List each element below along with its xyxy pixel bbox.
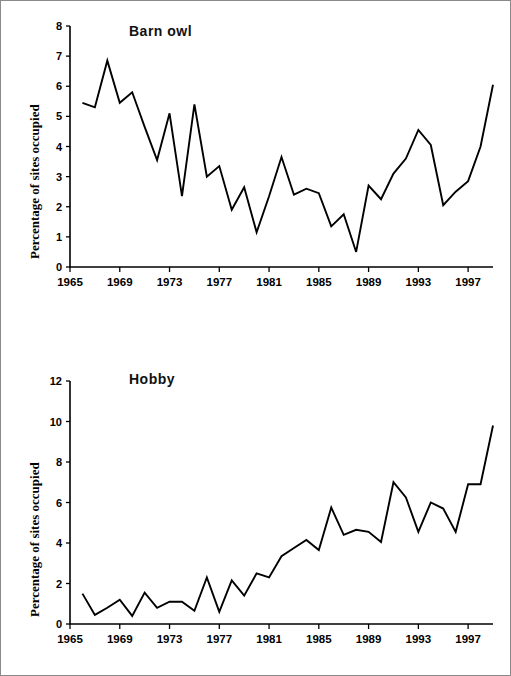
x-tick-label: 1985: [306, 633, 332, 645]
x-tick-label: 1973: [157, 276, 183, 288]
figure-frame: Percentage of sites occupied Barn owl 01…: [0, 0, 511, 676]
y-tick-label: 6: [56, 80, 62, 92]
x-tick-label: 1965: [57, 633, 83, 645]
data-series-line: [82, 61, 493, 252]
x-tick-label: 1985: [306, 276, 332, 288]
x-tick-label: 1977: [206, 276, 232, 288]
x-tick-label: 1993: [406, 633, 432, 645]
y-tick-label: 2: [56, 578, 62, 590]
chart-panel-hobby: Percentage of sites occupied Hobby 02468…: [1, 339, 511, 676]
x-tick-label: 1969: [107, 633, 133, 645]
y-tick-label: 4: [56, 537, 63, 549]
y-tick-label: 8: [56, 20, 62, 32]
x-tick-label: 1977: [206, 633, 232, 645]
y-tick-label: 1: [56, 231, 62, 243]
y-tick-label: 10: [50, 416, 62, 428]
y-tick-label: 8: [56, 456, 62, 468]
x-tick-label: 1969: [107, 276, 133, 288]
y-tick-label: 7: [56, 50, 62, 62]
x-tick-label: 1997: [455, 276, 481, 288]
x-tick-label: 1993: [406, 276, 432, 288]
y-tick-label: 4: [56, 141, 63, 153]
x-tick-label: 1997: [455, 633, 481, 645]
x-tick-label: 1981: [256, 633, 282, 645]
y-tick-label: 0: [56, 261, 62, 273]
x-tick-label: 1973: [157, 633, 183, 645]
x-tick-label: 1989: [356, 633, 382, 645]
y-tick-label: 2: [56, 201, 62, 213]
y-tick-label: 6: [56, 497, 62, 509]
chart-plot-barn-owl: 0123456781965196919731977198119851989199…: [1, 1, 511, 339]
y-tick-label: 12: [50, 375, 62, 387]
chart-panel-barn-owl: Percentage of sites occupied Barn owl 01…: [1, 1, 511, 339]
y-tick-label: 0: [56, 618, 62, 630]
chart-plot-hobby: 0246810121965196919731977198119851989199…: [1, 339, 511, 676]
x-tick-label: 1981: [256, 276, 282, 288]
y-tick-label: 5: [56, 110, 62, 122]
x-tick-label: 1989: [356, 276, 382, 288]
x-tick-label: 1965: [57, 276, 83, 288]
y-tick-label: 3: [56, 171, 62, 183]
data-series-line: [82, 426, 493, 616]
